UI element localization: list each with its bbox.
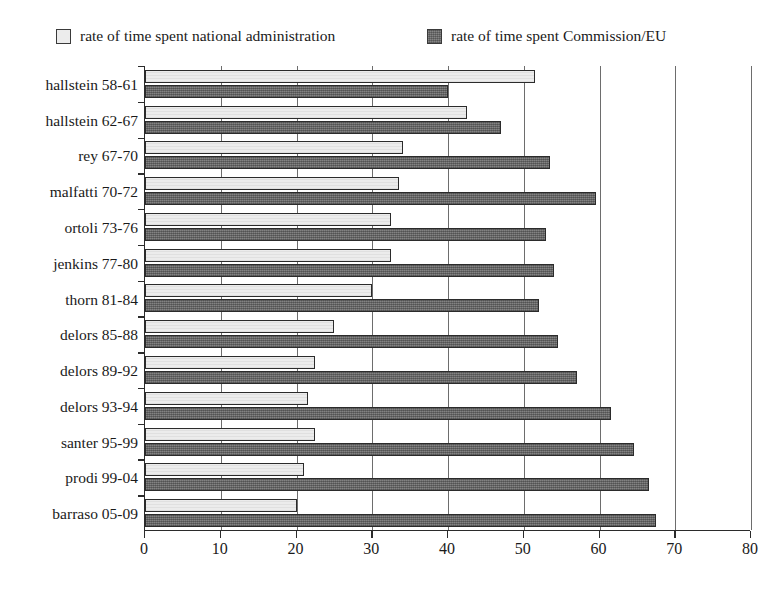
y-axis-label: delors 89-92	[0, 363, 138, 379]
x-axis-tick-60	[599, 531, 600, 538]
y-axis-label: thorn 81-84	[0, 292, 138, 308]
bar-commission-eu	[145, 264, 554, 277]
bar-national-administration	[145, 320, 334, 333]
x-axis-tick-40	[447, 531, 448, 538]
bar-commission-eu	[145, 514, 656, 527]
chart-title	[0, 0, 777, 2]
x-axis-tick-0	[144, 531, 145, 538]
x-axis-tick-70	[674, 531, 675, 538]
bar-national-administration	[145, 392, 308, 405]
legend-item-national-administration: rate of time spent national administrati…	[56, 25, 335, 47]
legend-label-national-administration: rate of time spent national administrati…	[80, 28, 335, 44]
bar-commission-eu	[145, 443, 634, 456]
x-axis-ticks	[144, 531, 750, 538]
y-axis-label: rey 67-70	[0, 148, 138, 164]
y-axis-label: delors 93-94	[0, 399, 138, 415]
x-axis-tick-80	[750, 531, 751, 538]
bar-commission-eu	[145, 121, 501, 134]
bar-national-administration	[145, 70, 535, 83]
bar-national-administration	[145, 356, 315, 369]
y-axis-label: barraso 05-09	[0, 506, 138, 522]
x-axis-labels: 01020304050607080	[0, 541, 777, 567]
bar-commission-eu	[145, 335, 558, 348]
bar-national-administration	[145, 284, 372, 297]
y-axis-label: prodi 99-04	[0, 470, 138, 486]
bar-group	[145, 388, 750, 424]
bar-group	[145, 245, 750, 281]
x-axis-label-30: 30	[341, 541, 401, 557]
bar-commission-eu	[145, 478, 649, 491]
bar-group	[145, 495, 750, 531]
bar-group	[145, 316, 750, 352]
y-axis-label: jenkins 77-80	[0, 256, 138, 272]
bar-group	[145, 138, 750, 174]
x-axis-tick-50	[523, 531, 524, 538]
legend-label-commission-eu: rate of time spent Commission/EU	[451, 28, 666, 44]
bar-commission-eu	[145, 228, 546, 241]
bar-group	[145, 209, 750, 245]
bar-commission-eu	[145, 85, 448, 98]
x-axis-label-80: 80	[720, 541, 777, 557]
bar-commission-eu	[145, 407, 611, 420]
x-axis-label-60: 60	[569, 541, 629, 557]
x-axis-tick-20	[296, 531, 297, 538]
x-axis-tick-30	[371, 531, 372, 538]
x-axis-label-10: 10	[190, 541, 250, 557]
bar-national-administration	[145, 213, 391, 226]
chart-legend: rate of time spent national administrati…	[0, 25, 777, 49]
y-axis-label: delors 85-88	[0, 327, 138, 343]
bar-commission-eu	[145, 371, 577, 384]
bar-group	[145, 459, 750, 495]
x-axis-label-40: 40	[417, 541, 477, 557]
bar-group	[145, 66, 750, 102]
bar-chart: rate of time spent national administrati…	[0, 0, 777, 593]
legend-item-commission-eu: rate of time spent Commission/EU	[427, 25, 666, 47]
bar-national-administration	[145, 249, 391, 262]
x-axis-label-70: 70	[644, 541, 704, 557]
y-axis-label: hallstein 62-67	[0, 113, 138, 129]
x-axis-label-0: 0	[114, 541, 174, 557]
y-axis-label: hallstein 58-61	[0, 77, 138, 93]
legend-swatch-light-icon	[56, 29, 71, 44]
bar-national-administration	[145, 106, 467, 119]
bar-national-administration	[145, 177, 399, 190]
bar-national-administration	[145, 428, 315, 441]
y-axis-label: ortoli 73-76	[0, 220, 138, 236]
x-axis-label-20: 20	[266, 541, 326, 557]
plot-area	[144, 66, 750, 531]
gridline-80	[751, 66, 752, 530]
bar-group	[145, 281, 750, 317]
bar-group	[145, 102, 750, 138]
x-axis-label-50: 50	[493, 541, 553, 557]
bar-group	[145, 352, 750, 388]
bar-groups	[145, 66, 750, 530]
bar-commission-eu	[145, 299, 539, 312]
y-axis-label: santer 95-99	[0, 435, 138, 451]
bar-group	[145, 424, 750, 460]
bar-national-administration	[145, 141, 403, 154]
y-axis-label: malfatti 70-72	[0, 184, 138, 200]
bar-national-administration	[145, 499, 297, 512]
x-axis-tick-10	[220, 531, 221, 538]
y-axis-labels: hallstein 58-61hallstein 62-67rey 67-70m…	[0, 66, 138, 531]
bar-commission-eu	[145, 156, 550, 169]
bar-national-administration	[145, 463, 304, 476]
legend-swatch-dark-icon	[427, 29, 442, 44]
bar-group	[145, 173, 750, 209]
bar-commission-eu	[145, 192, 596, 205]
